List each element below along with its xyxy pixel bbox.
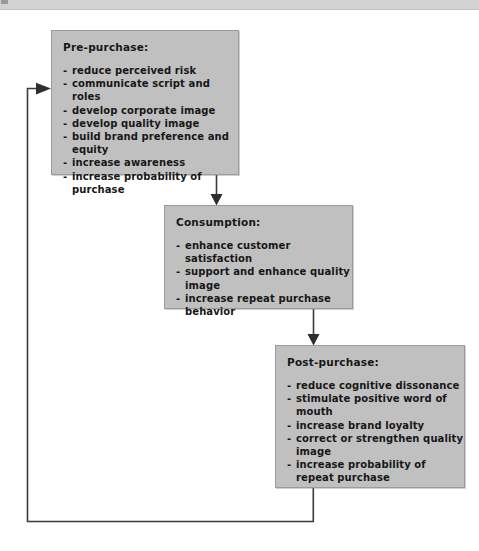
bullet-dash: - xyxy=(63,64,67,77)
box-consumption[interactable]: Consumption: -enhance customer satisfact… xyxy=(164,205,353,309)
bullet-dash: - xyxy=(287,419,291,432)
list-item-label: enhance customer satisfaction xyxy=(185,240,290,264)
list-item: -increase repeat purchase behavior xyxy=(176,292,352,318)
bullet-dash: - xyxy=(176,239,180,252)
list-item-label: correct or strengthen quality image xyxy=(296,433,463,457)
box-pre-purchase-title: Pre-purchase: xyxy=(63,41,148,53)
list-item-label: support and enhance quality image xyxy=(185,266,350,290)
bullet-dash: - xyxy=(176,292,180,305)
list-item: -increase awareness xyxy=(63,156,238,169)
box-pre-purchase[interactable]: Pre-purchase: -reduce perceived risk -co… xyxy=(51,30,239,175)
list-item-label: reduce cognitive dissonance xyxy=(296,380,459,391)
list-item: -develop quality image xyxy=(63,117,238,130)
list-item: -reduce cognitive dissonance xyxy=(287,379,464,392)
box-consumption-list: -enhance customer satisfaction -support … xyxy=(176,239,352,318)
bullet-dash: - xyxy=(63,77,67,90)
page-top-bar xyxy=(0,0,479,10)
list-item: -reduce perceived risk xyxy=(63,64,238,77)
list-item: -stimulate positive word of mouth xyxy=(287,392,464,418)
list-item: -increase probability of repeat purchase xyxy=(287,458,464,484)
bullet-dash: - xyxy=(287,379,291,392)
bullet-dash: - xyxy=(287,458,291,471)
bullet-dash: - xyxy=(63,156,67,169)
bullet-dash: - xyxy=(63,104,67,117)
list-item: -develop corporate image xyxy=(63,104,238,117)
bullet-dash: - xyxy=(287,432,291,445)
box-consumption-title: Consumption: xyxy=(176,216,260,228)
box-post-purchase-list: -reduce cognitive dissonance -stimulate … xyxy=(287,379,464,485)
diagram-canvas: Pre-purchase: -reduce perceived risk -co… xyxy=(0,0,479,551)
list-item: -enhance customer satisfaction xyxy=(176,239,352,265)
list-item-label: increase repeat purchase behavior xyxy=(185,293,331,317)
list-item-label: reduce perceived risk xyxy=(72,65,196,76)
bullet-dash: - xyxy=(176,265,180,278)
list-item-label: increase awareness xyxy=(72,157,185,168)
list-item: -increase probability of purchase xyxy=(63,170,238,196)
bullet-dash: - xyxy=(63,130,67,143)
box-post-purchase[interactable]: Post-purchase: -reduce cognitive dissona… xyxy=(275,345,465,488)
page-edge-marker-icon xyxy=(1,0,8,4)
bullet-dash: - xyxy=(63,170,67,183)
list-item-label: stimulate positive word of mouth xyxy=(296,393,447,417)
list-item-label: increase brand loyalty xyxy=(296,420,424,431)
list-item: -correct or strengthen quality image xyxy=(287,432,464,458)
box-pre-purchase-list: -reduce perceived risk -communicate scri… xyxy=(63,64,238,196)
box-post-purchase-title: Post-purchase: xyxy=(287,356,379,368)
list-item-label: develop quality image xyxy=(72,118,199,129)
bullet-dash: - xyxy=(63,117,67,130)
list-item-label: communicate script and roles xyxy=(72,78,210,102)
list-item: -communicate script and roles xyxy=(63,77,238,103)
list-item: -build brand preference and equity xyxy=(63,130,238,156)
list-item: -support and enhance quality image xyxy=(176,265,352,291)
bullet-dash: - xyxy=(287,392,291,405)
list-item-label: develop corporate image xyxy=(72,105,216,116)
list-item-label: increase probability of repeat purchase xyxy=(296,459,426,483)
list-item: -increase brand loyalty xyxy=(287,419,464,432)
list-item-label: increase probability of purchase xyxy=(72,171,202,195)
list-item-label: build brand preference and equity xyxy=(72,131,229,155)
